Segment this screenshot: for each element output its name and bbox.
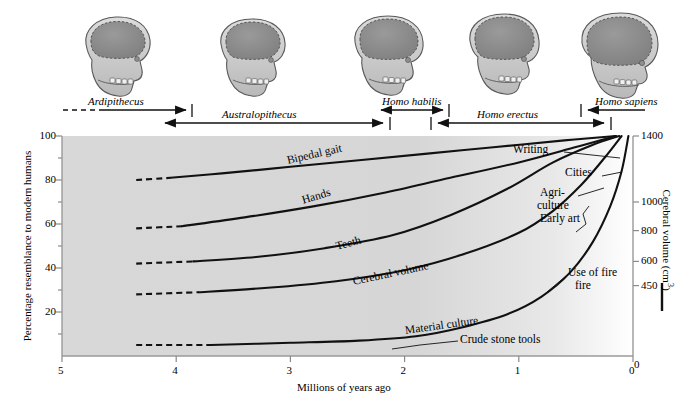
y-axis-right-title-text: Cerebral volume (cm: [661, 189, 673, 282]
y-axis-left-tick-40: 40: [32, 261, 56, 273]
species-label-homo-habilis: Homo habilis: [382, 95, 442, 107]
y-axis-left-tick-80: 80: [32, 173, 56, 185]
y-axis-left-tick-100: 100: [32, 129, 56, 141]
figure-canvas: [0, 0, 683, 401]
annotation-agriculture-line2: culture: [537, 199, 569, 211]
annotation-use-of-fire-line1: Use of fire: [568, 266, 617, 278]
y-axis-left-tick-20: 20: [32, 305, 56, 317]
x-axis-tick-4: 4: [172, 364, 178, 376]
x-axis-tick-5: 5: [58, 364, 64, 376]
x-axis-tick-3: 3: [286, 364, 292, 376]
annotation-early-art: Early art: [540, 212, 580, 224]
annotation-crude-stone-tools: Crude stone tools: [460, 333, 541, 345]
skull-homo-habilis: [355, 16, 423, 95]
species-label-australopithecus: Australopithecus: [222, 108, 297, 120]
y-axis-right-tick-1400: 1400: [641, 129, 663, 141]
evolution-figure: Ardipithecus Australopithecus Homo habil…: [0, 0, 683, 401]
skull-homo-erectus: [470, 14, 539, 94]
y-axis-right-zero-label: 0: [634, 358, 640, 370]
species-label-homo-sapiens: Homo sapiens: [595, 95, 658, 107]
skull-ardipithecus: [86, 17, 150, 96]
x-axis-tick-1: 1: [515, 364, 521, 376]
species-label-ardipithecus: Ardipithecus: [88, 95, 144, 107]
annotation-use-of-fire-line2: fire: [575, 279, 591, 291]
x-axis-ticks: [62, 356, 633, 362]
y-axis-right-tick-450: 450: [641, 279, 658, 291]
skull-homo-sapiens: [582, 13, 658, 98]
skull-illustrations: [86, 13, 658, 98]
y-axis-right-tick-1000: 1000: [641, 195, 663, 207]
y-axis-right-tick-600: 600: [641, 254, 658, 266]
y-axis-left-ticks: [56, 136, 62, 334]
y-axis-right-tick-800: 800: [641, 224, 658, 236]
y-axis-right-title: Cerebral volume (cm3): [661, 189, 675, 290]
y-axis-left-tick-60: 60: [32, 217, 56, 229]
x-axis-title: Millions of years ago: [297, 381, 391, 393]
y-axis-right-ticks: [633, 136, 639, 286]
skull-australopithecus: [221, 19, 285, 96]
annotation-agriculture-line1: Agri-: [540, 186, 565, 198]
x-axis-tick-2: 2: [401, 364, 407, 376]
y-axis-right-title-tail: ): [661, 287, 673, 291]
species-label-homo-erectus: Homo erectus: [477, 108, 538, 120]
y-axis-left-title: Percentage resemblance to modern humans: [21, 151, 33, 342]
annotation-cities: Cities: [565, 166, 592, 178]
species-timeline-arrows: [63, 104, 645, 130]
annotation-writing: Writing: [513, 143, 548, 155]
